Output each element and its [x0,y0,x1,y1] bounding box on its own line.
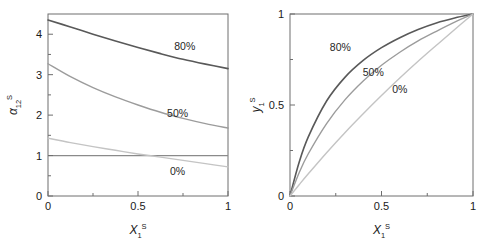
x-axis-label: X1S [372,222,390,240]
y-axis-label: y1S [248,97,266,113]
curve-label-80pct: 80% [330,41,351,53]
y-tick-label: 0.5 [269,99,284,111]
plot-frame [290,14,473,196]
x-axis-label: X1S [128,222,146,240]
y-axis-label: α12S [5,95,23,115]
y-tick-label: 0 [278,190,284,202]
series-curve-80pct [290,14,473,196]
selectivity-plot-svg: 0123400.5180%50%0%X1Sα12S [0,0,248,248]
y-tick-label: 2 [36,109,42,121]
curve-label-0pct: 0% [170,165,185,177]
x-tick-label: 0 [45,200,51,212]
y-tick-label: 0 [36,190,42,202]
y-tick-label: 1 [36,150,42,162]
y-tick-label: 3 [36,69,42,81]
y-tick-label: 4 [36,28,42,40]
x-tick-label: 1 [470,200,476,212]
series-curve-0pct [290,14,473,196]
series-curve-50pct [290,14,473,196]
curve-label-0pct: 0% [392,83,407,95]
curve-label-80pct: 80% [174,40,195,52]
x-tick-label: 0.5 [374,200,389,212]
chart-panel-selectivity: 0123400.5180%50%0%X1Sα12S [0,0,248,248]
curve-label-50pct: 50% [363,66,384,78]
x-tick-label: 0 [287,200,293,212]
y-tick-label: 1 [278,8,284,20]
equilibrium-plot-svg: 00.5100.5180%50%0%X1Sy1S [248,0,495,248]
curve-label-50pct: 50% [167,107,188,119]
series-curve-0pct [48,138,228,167]
two-panel-figure: 0123400.5180%50%0%X1Sα12S 00.5100.5180%5… [0,0,495,248]
series-curve-50pct [48,64,228,128]
x-tick-label: 1 [225,200,231,212]
series-curve-80pct [48,20,228,69]
x-tick-label: 0.5 [130,200,145,212]
chart-panel-equilibrium: 00.5100.5180%50%0%X1Sy1S [248,0,495,248]
